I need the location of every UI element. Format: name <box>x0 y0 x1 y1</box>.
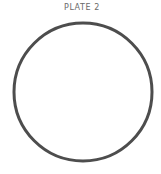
circle-outline <box>14 23 152 161</box>
circle-figure <box>0 0 161 174</box>
